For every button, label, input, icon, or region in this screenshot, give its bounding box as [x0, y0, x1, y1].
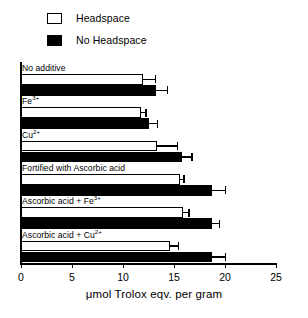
x-tick [21, 263, 22, 268]
error-bar-cap [145, 109, 146, 117]
error-bar-cap [155, 75, 156, 83]
bar-group: Ascorbic acid + Fe3+ [21, 196, 276, 229]
bar-no-headspace [21, 252, 212, 263]
legend-item-no-headspace: No Headspace [47, 32, 147, 48]
category-label: Ascorbic acid + Fe3+ [22, 197, 101, 206]
category-label: Fe3+ [22, 97, 39, 106]
category-label: Ascorbic acid + Cu2+ [22, 231, 102, 240]
x-tick [276, 263, 277, 268]
bar-headspace [21, 107, 141, 118]
error-bar-line [149, 123, 157, 124]
error-bar-cap [219, 220, 220, 228]
x-tick [225, 263, 226, 268]
bar-no-headspace [21, 85, 156, 96]
category-label: Fortified with Ascorbic acid [22, 164, 125, 173]
legend-label-no-headspace: No Headspace [76, 35, 147, 46]
error-bar-cap [225, 186, 226, 194]
bar-headspace [21, 241, 170, 252]
x-tick [174, 263, 175, 268]
error-bar-line [212, 256, 225, 257]
bar-group: Ascorbic acid + Cu2+ [21, 230, 276, 263]
bar-no-headspace [21, 185, 212, 196]
bar-group: Fe3+ [21, 96, 276, 129]
error-bar-cap [178, 242, 179, 250]
error-bar-line [212, 190, 225, 191]
legend-swatch-filled-icon [47, 35, 62, 46]
x-tick-label: 20 [210, 271, 240, 283]
bar-group: Fortified with Ascorbic acid [21, 163, 276, 196]
plot-area: No additiveFe3+Cu2+Fortified with Ascorb… [21, 63, 276, 263]
error-bar-line [157, 145, 177, 146]
bar-group: No additive [21, 63, 276, 96]
x-tick [123, 263, 124, 268]
legend-label-headspace: Headspace [76, 13, 130, 24]
error-bar-cap [177, 142, 178, 150]
error-bar-cap [183, 175, 184, 183]
x-tick-label: 5 [57, 271, 87, 283]
error-bar-line [156, 90, 167, 91]
bar-no-headspace [21, 218, 212, 229]
bar-chart: Headspace No Headspace No additiveFe3+Cu… [0, 0, 308, 318]
error-bar-cap [225, 253, 226, 261]
x-tick-label: 25 [261, 271, 291, 283]
x-tick-label: 15 [159, 271, 189, 283]
error-bar-line [182, 156, 191, 157]
legend-swatch-open-icon [47, 13, 62, 24]
x-tick-label: 10 [108, 271, 138, 283]
bar-no-headspace [21, 152, 182, 163]
x-axis-line [20, 263, 276, 265]
error-bar-cap [191, 153, 192, 161]
error-bar-cap [188, 209, 189, 217]
x-tick-label: 0 [6, 271, 36, 283]
chart-legend: Headspace No Headspace [47, 10, 147, 54]
error-bar-line [212, 223, 219, 224]
x-axis-title: μmol Trolox eqv. per gram [0, 288, 308, 300]
error-bar-cap [157, 120, 158, 128]
bar-headspace [21, 141, 157, 152]
error-bar-line [143, 79, 154, 80]
bar-headspace [21, 207, 183, 218]
category-label: No additive [22, 64, 66, 73]
legend-item-headspace: Headspace [47, 10, 147, 26]
bar-headspace [21, 74, 143, 85]
bar-group: Cu2+ [21, 130, 276, 163]
error-bar-line [170, 245, 178, 246]
x-tick [72, 263, 73, 268]
category-label: Cu2+ [22, 131, 40, 140]
bar-headspace [21, 174, 180, 185]
error-bar-cap [167, 86, 168, 94]
